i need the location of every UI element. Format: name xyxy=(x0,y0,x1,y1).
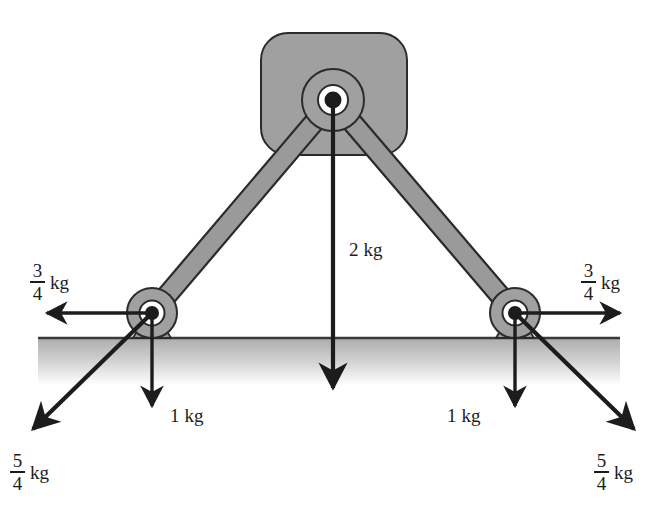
unit-label: kg xyxy=(462,406,481,425)
center-load-value: 2 xyxy=(349,240,359,259)
left-vertical-force-label: 1 kg xyxy=(170,406,204,425)
unit-label: kg xyxy=(50,273,69,292)
right-strut xyxy=(333,100,515,313)
fraction-five-quarters: 5 4 xyxy=(10,451,25,493)
unit-label: kg xyxy=(601,273,620,292)
right-vertical-value: 1 xyxy=(447,406,457,425)
center-load-label: 2 kg xyxy=(349,240,383,259)
left-horizontal-force-label: 3 4 kg xyxy=(30,262,69,304)
unit-label: kg xyxy=(30,463,49,482)
right-horizontal-force-label: 3 4 kg xyxy=(581,262,620,304)
left-resultant-force-label: 5 4 kg xyxy=(10,452,49,494)
unit-label: kg xyxy=(614,463,633,482)
fraction-three-quarters: 3 4 xyxy=(581,261,596,303)
left-vertical-value: 1 xyxy=(170,406,180,425)
statics-diagram-canvas xyxy=(0,0,668,510)
right-vertical-force-label: 1 kg xyxy=(447,406,481,425)
right-resultant-force-label: 5 4 kg xyxy=(594,452,633,494)
left-strut xyxy=(152,100,333,313)
fraction-three-quarters: 3 4 xyxy=(30,261,45,303)
unit-label: kg xyxy=(185,406,204,425)
fraction-five-quarters: 5 4 xyxy=(594,451,609,493)
unit-label: kg xyxy=(364,240,383,259)
ground-shading xyxy=(38,339,620,385)
